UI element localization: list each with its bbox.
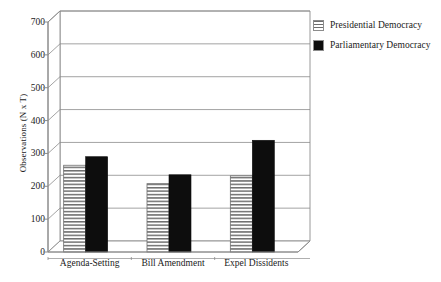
bar (64, 165, 86, 252)
bar (147, 184, 169, 252)
x-axis-tick-label: Expel Dissidents (224, 258, 288, 268)
x-axis-tick-label: Agenda-Setting (60, 258, 120, 268)
x-axis-tick-labels: Agenda-SettingBill AmendmentExpel Dissid… (0, 258, 441, 278)
legend-item-label: Presidential Democracy (330, 20, 422, 30)
legend-swatch-striped-icon (313, 20, 324, 31)
bar (169, 175, 191, 252)
legend-item[interactable]: Parliamentary Democracy (313, 37, 441, 53)
legend-item[interactable]: Presidential Democracy (313, 17, 441, 33)
bar-chart: Observations (N x T) 0100200300400500600… (0, 0, 441, 282)
bar (230, 176, 252, 252)
bar (86, 157, 108, 252)
bar (252, 140, 274, 252)
x-axis-tick-label: Bill Amendment (141, 258, 204, 268)
chart-legend: Presidential DemocracyParliamentary Demo… (313, 17, 441, 57)
legend-item-label: Parliamentary Democracy (330, 40, 431, 50)
legend-swatch-solid-icon (313, 40, 324, 51)
